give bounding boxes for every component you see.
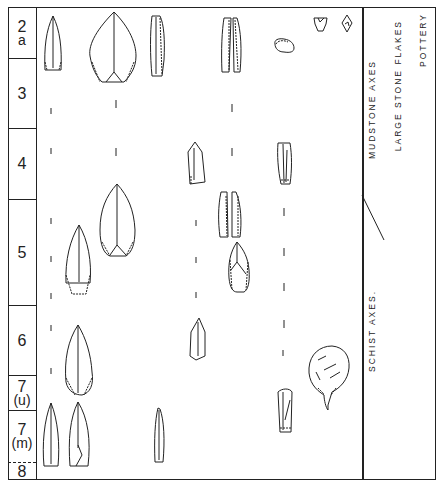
- mudstone-axe-icon: [90, 12, 136, 82]
- artifact-drawings: [0, 0, 444, 487]
- pebble-tool-icon: [275, 39, 294, 53]
- dash-mark-icon: [283, 208, 284, 356]
- mudstone-axe-icon: [100, 184, 135, 256]
- mudstone-point-icon: [69, 402, 89, 466]
- blade-icon: [151, 16, 165, 76]
- schist-axe-icon: [278, 389, 292, 432]
- transition-line: [362, 195, 384, 240]
- blade-pair-icon: [219, 192, 241, 237]
- blade-icon: [155, 408, 164, 462]
- mudstone-point-icon: [45, 16, 61, 70]
- pottery-sherd-icon: [314, 18, 327, 31]
- pottery-sherd-icon: [342, 15, 352, 32]
- flake-icon: [188, 142, 205, 184]
- flake-icon: [190, 318, 205, 360]
- mudstone-point-icon: [43, 403, 58, 466]
- schist-tanged-axe-icon: [309, 346, 349, 410]
- mudstone-point-icon: [66, 225, 91, 294]
- schist-axe-icon: [278, 143, 292, 184]
- blade-pair-icon: [222, 18, 241, 72]
- mudstone-axe-icon: [229, 242, 249, 292]
- mudstone-point-icon: [66, 325, 93, 395]
